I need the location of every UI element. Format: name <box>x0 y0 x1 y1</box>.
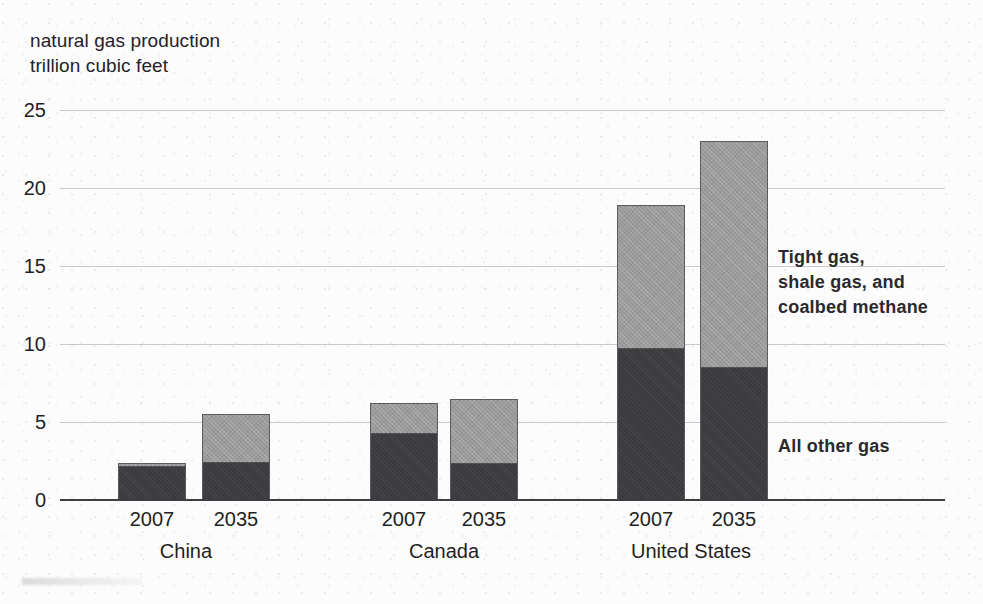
segment-all-other-gas-china-2035 <box>203 462 269 499</box>
y-tick-label-0: 0 <box>35 489 46 512</box>
gridline-20 <box>60 188 945 189</box>
segment-all-other-gas-china-2007 <box>119 466 185 499</box>
y-axis-title: natural gas production trillion cubic fe… <box>30 28 220 78</box>
year-label-china-2007: 2007 <box>118 508 186 531</box>
y-tick-label-20: 20 <box>24 177 46 200</box>
segment-all-other-gas-canada-2007 <box>371 433 437 499</box>
segment-tight-shale-coalbed-us-2007 <box>618 206 684 348</box>
y-tick-label-5: 5 <box>35 411 46 434</box>
group-label-china: China <box>86 540 286 563</box>
y-tick-label-25: 25 <box>24 99 46 122</box>
y-tick-label-15: 15 <box>24 255 46 278</box>
chart-figure: natural gas production trillion cubic fe… <box>0 0 983 604</box>
segment-all-other-gas-canada-2035 <box>451 463 517 499</box>
segment-tight-shale-coalbed-canada-2035 <box>451 400 517 464</box>
group-label-us: United States <box>591 540 791 563</box>
segment-all-other-gas-us-2035 <box>701 367 767 499</box>
bar-canada-2035 <box>450 399 518 500</box>
scan-artifact <box>22 578 142 585</box>
y-tick-label-10: 10 <box>24 333 46 356</box>
bar-us-2035 <box>700 141 768 500</box>
segment-all-other-gas-us-2007 <box>618 348 684 499</box>
bar-china-2035 <box>202 414 270 500</box>
segment-tight-shale-coalbed-us-2035 <box>701 142 767 366</box>
gridline-25 <box>60 110 945 111</box>
segment-tight-shale-coalbed-china-2035 <box>203 415 269 462</box>
x-axis-labels: 200720352007203520072035 ChinaCanadaUnit… <box>60 508 945 588</box>
gridline-10 <box>60 344 945 345</box>
annotation-tight-gas: Tight gas, shale gas, and coalbed methan… <box>778 245 928 320</box>
year-label-canada-2007: 2007 <box>370 508 438 531</box>
year-label-china-2035: 2035 <box>202 508 270 531</box>
year-label-us-2007: 2007 <box>617 508 685 531</box>
segment-tight-shale-coalbed-canada-2007 <box>371 404 437 433</box>
bar-canada-2007 <box>370 403 438 500</box>
bar-china-2007 <box>118 463 186 500</box>
year-label-us-2035: 2035 <box>700 508 768 531</box>
x-axis-line <box>60 499 945 501</box>
annotation-all-other-gas: All other gas <box>778 434 890 459</box>
bar-us-2007 <box>617 205 685 500</box>
group-label-canada: Canada <box>344 540 544 563</box>
year-label-canada-2035: 2035 <box>450 508 518 531</box>
